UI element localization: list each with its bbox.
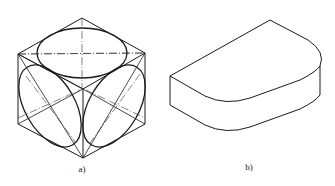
figure-a-cube bbox=[6, 18, 158, 158]
diagram-svg bbox=[0, 0, 335, 186]
left-ellipse bbox=[6, 55, 94, 158]
figure-b-label: b) bbox=[245, 162, 253, 172]
figure-a-label: a) bbox=[79, 164, 86, 174]
slab-top-face bbox=[170, 20, 322, 102]
figure-b-slab bbox=[170, 20, 322, 131]
slab-bottom-edge bbox=[170, 95, 320, 131]
diagram-canvas: a) b) bbox=[0, 0, 335, 186]
